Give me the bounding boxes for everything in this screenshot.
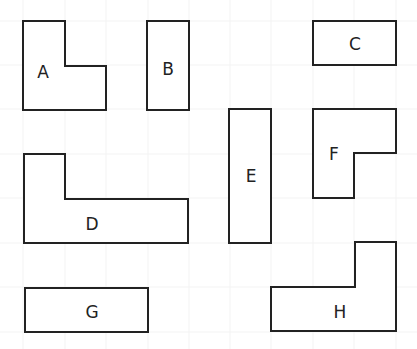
shape-a-label: A [37, 62, 49, 82]
shape-f-label: F [329, 144, 339, 164]
shape-h: H [271, 242, 396, 331]
shape-e-label: E [246, 166, 257, 186]
shape-b-label: B [162, 59, 174, 79]
shape-d-label: D [85, 214, 98, 234]
shape-h-label: H [334, 302, 347, 322]
shape-b: B [147, 21, 189, 110]
shape-f: F [313, 109, 396, 198]
shape-f-outline [313, 109, 396, 198]
shape-c-label: C [349, 34, 361, 54]
shape-c: C [313, 21, 396, 65]
shape-e: E [229, 109, 271, 243]
shape-g-label: G [85, 302, 98, 322]
shape-a-outline [23, 21, 106, 110]
shape-g: G [25, 288, 148, 332]
shapes-diagram: A B C D E F G H [0, 0, 417, 349]
shape-a: A [23, 21, 106, 110]
